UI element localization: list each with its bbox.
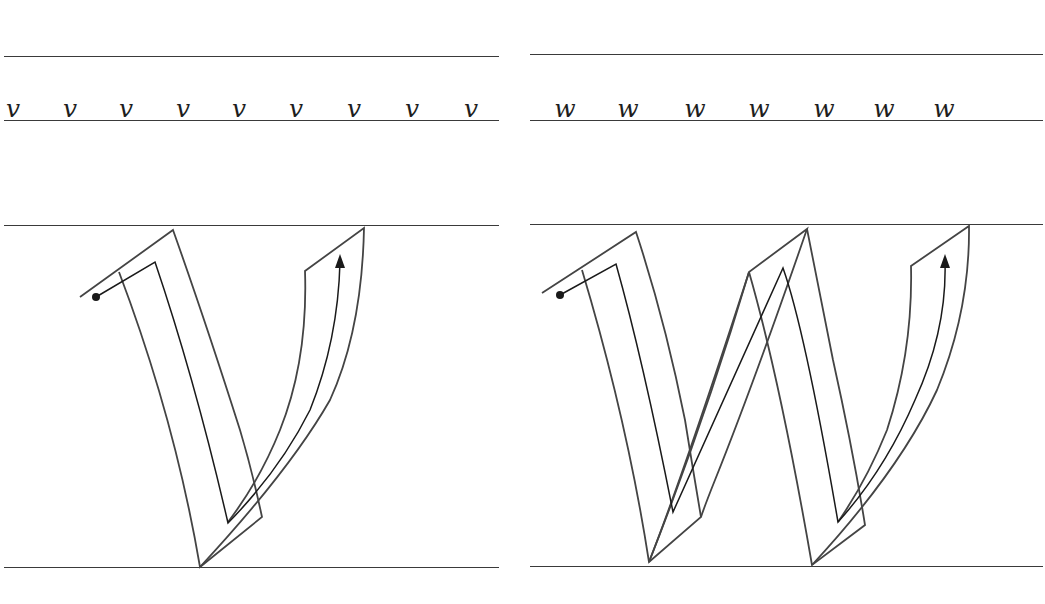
large-letter-w-diagram: [515, 0, 1045, 604]
panel-letter-w: w w w w w w w: [515, 0, 1045, 604]
w-second-downstroke-outline: [749, 229, 865, 565]
start-dot-icon: [92, 293, 100, 301]
w-pen-path: [560, 262, 945, 522]
v-pen-path: [96, 262, 340, 523]
large-letter-v-diagram: [0, 0, 515, 604]
arrow-up-icon: [940, 254, 950, 268]
start-dot-icon: [556, 291, 564, 299]
panel-letter-v: v v v v v v v v v: [0, 0, 515, 604]
arrow-up-icon: [335, 254, 345, 268]
